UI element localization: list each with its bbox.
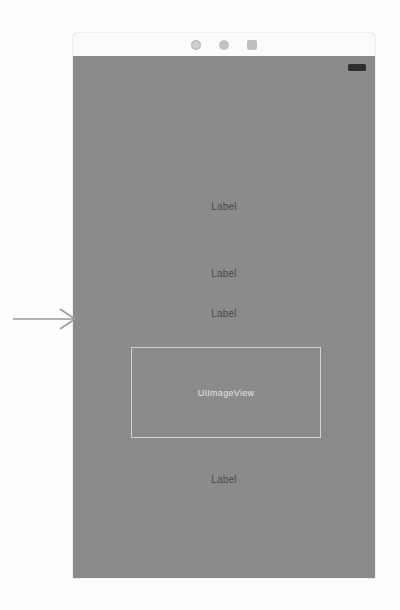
app-screen: Label Label Label UIImageView Label xyxy=(73,56,375,578)
screenshot-canvas: Label Label Label UIImageView Label xyxy=(0,0,400,610)
device-sensor-row xyxy=(73,33,375,56)
image-view-placeholder[interactable]: UIImageView xyxy=(131,347,321,438)
pointer-arrow-icon xyxy=(12,306,78,332)
pointer-arrow xyxy=(12,306,78,332)
battery-icon xyxy=(348,64,366,71)
screen-label-4: Label xyxy=(73,474,375,486)
earpiece-speaker-icon xyxy=(247,40,257,50)
screen-label-2: Label xyxy=(73,268,375,280)
image-view-label: UIImageView xyxy=(198,388,255,398)
proximity-sensor-icon xyxy=(219,40,229,50)
iphone-mockup: Label Label Label UIImageView Label xyxy=(73,33,375,578)
front-camera-icon xyxy=(191,40,201,50)
device-header-bar xyxy=(73,33,375,57)
screen-label-3: Label xyxy=(73,308,375,320)
screen-label-1: Label xyxy=(73,201,375,213)
